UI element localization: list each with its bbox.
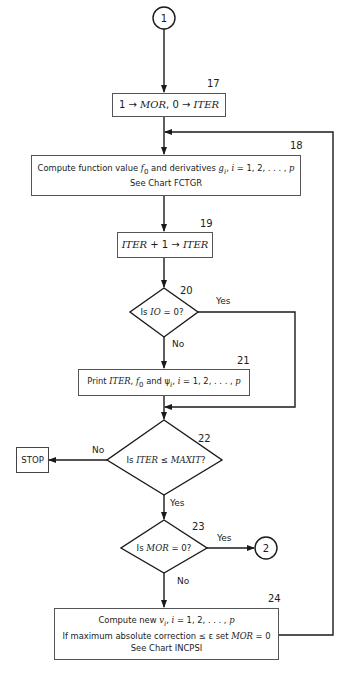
step-23-number: 23 <box>192 521 205 532</box>
step-24-line2: If maximum absolute correction ≤ ε set M… <box>62 630 270 642</box>
step-22-no-label: No <box>92 445 104 455</box>
step-17-init-box: 1 → MOR, 0 → ITER <box>112 93 226 117</box>
step-20-number: 20 <box>180 285 193 296</box>
step-24-line1: Compute new vi, i = 1, 2, . . . , p <box>98 614 234 630</box>
step-17-number: 17 <box>207 78 220 89</box>
step-21-number: 21 <box>237 355 250 366</box>
step-24-line3: See Chart INCPSI <box>131 642 202 654</box>
step-18-number: 18 <box>290 140 303 151</box>
start-connector-label: 1 <box>161 13 167 24</box>
step-22-number: 22 <box>198 433 211 444</box>
step-23-no-label: No <box>177 576 189 586</box>
step-18-compute-box: Compute function value f0 and derivative… <box>31 155 301 196</box>
step-23-question: Is MOR = 0? <box>137 543 192 553</box>
step-19-number: 19 <box>200 218 213 229</box>
end-connector-label: 2 <box>263 543 269 554</box>
step-22-question: Is ITER ≤ MAXIT? <box>126 455 205 465</box>
step-21-print-box: Print ITER, f0 and ψi, i = 1, 2, . . . ,… <box>78 369 250 396</box>
step-21-text: Print ITER, f0 and ψi, i = 1, 2, . . . ,… <box>87 375 240 391</box>
step-23-yes-label: Yes <box>217 533 232 543</box>
step-18-line2: See Chart FCTGR <box>130 177 202 189</box>
step-24-number: 24 <box>268 593 281 604</box>
stop-label: STOP <box>21 454 44 466</box>
step-19-increment-box: ITER + 1 → ITER <box>117 232 213 258</box>
stop-terminal-box: STOP <box>16 447 49 473</box>
step-22-yes-label: Yes <box>170 498 185 508</box>
step-18-line1: Compute function value f0 and derivative… <box>38 162 295 178</box>
step-17-text: 1 → MOR, 0 → ITER <box>119 99 219 111</box>
step-20-no-label: No <box>172 339 184 349</box>
step-20-yes-label: Yes <box>216 296 231 306</box>
step-20-question: Is IO = 0? <box>141 307 184 317</box>
step-24-correction-box: Compute new vi, i = 1, 2, . . . , p If m… <box>54 608 279 660</box>
step-19-text: ITER + 1 → ITER <box>122 239 209 251</box>
